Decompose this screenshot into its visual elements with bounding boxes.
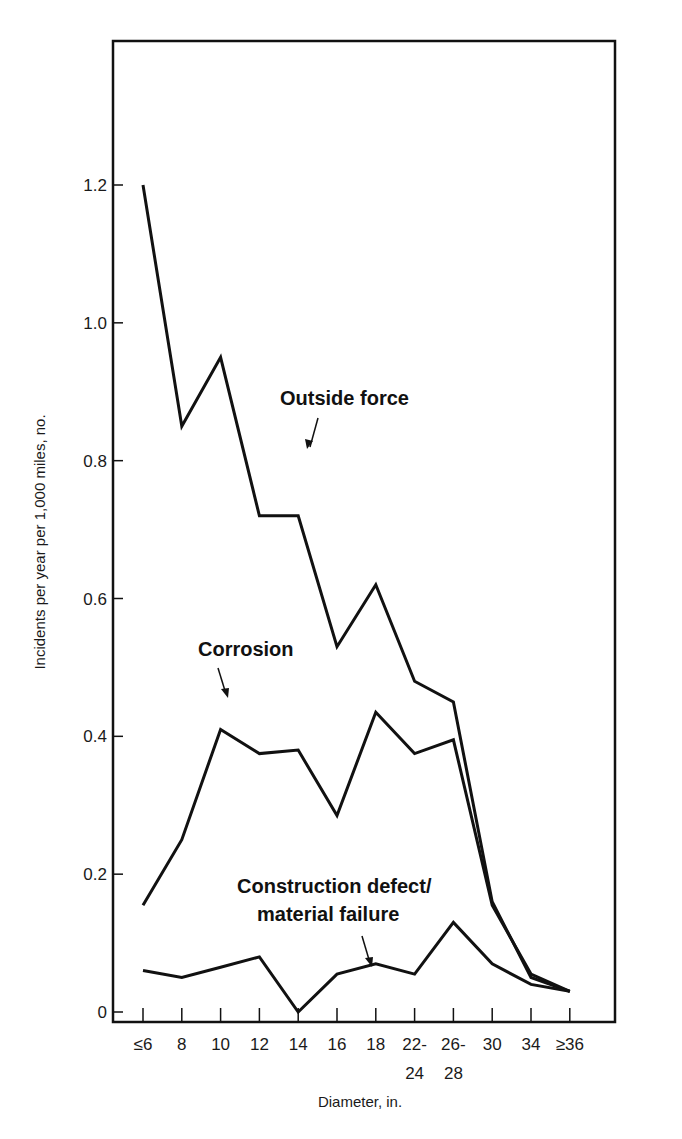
- annotation-construction-line1: Construction defect/: [237, 875, 432, 897]
- x-axis: ≤68101214161822-2426-283034≥36: [134, 1008, 584, 1083]
- x-axis-title: Diameter, in.: [318, 1093, 402, 1110]
- series-line-outside-force: [143, 185, 570, 991]
- x-tick-label: 34: [522, 1035, 541, 1054]
- y-tick-label: 1.0: [83, 314, 107, 333]
- x-tick-label: 26-: [441, 1035, 466, 1054]
- y-tick-label: 0.6: [83, 590, 107, 609]
- x-tick-label: 22-: [402, 1035, 427, 1054]
- x-tick-label: ≥36: [556, 1035, 584, 1054]
- arrowhead-corrosion: [221, 688, 229, 698]
- y-tick-label: 0: [98, 1003, 107, 1022]
- y-tick-label: 0.2: [83, 865, 107, 884]
- y-tick-label: 0.8: [83, 452, 107, 471]
- series-line-construction-defect-material-failure: [143, 922, 570, 1012]
- y-tick-label: 1.2: [83, 176, 107, 195]
- x-tick-label: 8: [177, 1035, 186, 1054]
- x-tick-label: 18: [366, 1035, 385, 1054]
- annotation-construction-line2: material failure: [257, 903, 399, 925]
- y-tick-label: 0.4: [83, 727, 107, 746]
- line-chart: 00.20.40.60.81.01.2 ≤68101214161822-2426…: [0, 0, 682, 1139]
- x-tick-label: 24: [405, 1064, 424, 1083]
- x-tick-label: ≤6: [134, 1035, 153, 1054]
- series-line-corrosion: [143, 712, 570, 991]
- x-tick-label: 14: [289, 1035, 308, 1054]
- x-tick-label: 12: [250, 1035, 269, 1054]
- x-tick-label: 16: [328, 1035, 347, 1054]
- x-tick-label: 10: [211, 1035, 230, 1054]
- x-tick-label: 28: [444, 1064, 463, 1083]
- x-tick-label: 30: [483, 1035, 502, 1054]
- annotation-outside-force: Outside force: [280, 387, 409, 409]
- annotation-corrosion: Corrosion: [198, 638, 294, 660]
- y-axis: 00.20.40.60.81.01.2: [83, 176, 123, 1022]
- y-axis-title: Incidents per year per 1,000 miles, no.: [31, 414, 48, 669]
